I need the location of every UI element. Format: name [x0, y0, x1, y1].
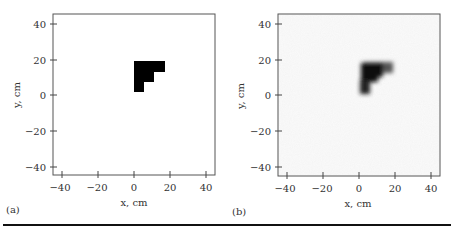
- svg-text:40: 40: [425, 183, 438, 194]
- panel-label-a: (a): [6, 204, 20, 215]
- bottom-rule: [3, 224, 451, 226]
- chart-b: 40 20 0 −20 −40 −40 −20 0 20 40 x, cm y,…: [227, 0, 454, 220]
- svg-text:−20: −20: [311, 183, 332, 194]
- svg-text:0: 0: [356, 183, 362, 194]
- x-axis-label-a: x, cm: [120, 197, 148, 208]
- panel-label-b: (b): [232, 206, 246, 217]
- svg-text:−20: −20: [250, 126, 271, 137]
- svg-text:−20: −20: [86, 182, 107, 193]
- svg-text:−40: −40: [250, 162, 271, 173]
- svg-text:20: 20: [164, 182, 177, 193]
- background-noise-b: [279, 15, 439, 175]
- svg-text:40: 40: [258, 19, 271, 30]
- svg-text:40: 40: [200, 182, 213, 193]
- svg-text:20: 20: [33, 55, 46, 66]
- x-tick-labels-a: −40 −20 0 20 40: [49, 182, 212, 193]
- y-axis-label-b: y, cm: [235, 83, 246, 110]
- panel-a: 40 20 0 −20 −40 −40 −20 0 20 40 x, cm y,…: [0, 0, 227, 220]
- x-axis-label-b: x, cm: [344, 198, 372, 209]
- plot-area-a: [53, 14, 215, 175]
- svg-text:0: 0: [265, 90, 271, 101]
- svg-text:−20: −20: [25, 126, 46, 137]
- svg-text:20: 20: [258, 55, 271, 66]
- svg-text:−40: −40: [49, 182, 70, 193]
- y-tick-labels-a: 40 20 0 −20 −40: [25, 19, 46, 173]
- y-axis-label-a: y, cm: [11, 82, 22, 109]
- y-tick-labels-b: 40 20 0 −20 −40: [250, 19, 271, 173]
- svg-text:0: 0: [131, 182, 137, 193]
- svg-text:−40: −40: [274, 183, 295, 194]
- svg-text:40: 40: [33, 19, 46, 30]
- svg-text:20: 20: [389, 183, 402, 194]
- panel-b: 40 20 0 −20 −40 −40 −20 0 20 40 x, cm y,…: [227, 0, 454, 220]
- svg-text:0: 0: [40, 90, 46, 101]
- chart-a: 40 20 0 −20 −40 −40 −20 0 20 40 x, cm y,…: [0, 0, 227, 220]
- x-tick-labels-b: −40 −20 0 20 40: [274, 183, 437, 194]
- svg-text:−40: −40: [25, 162, 46, 173]
